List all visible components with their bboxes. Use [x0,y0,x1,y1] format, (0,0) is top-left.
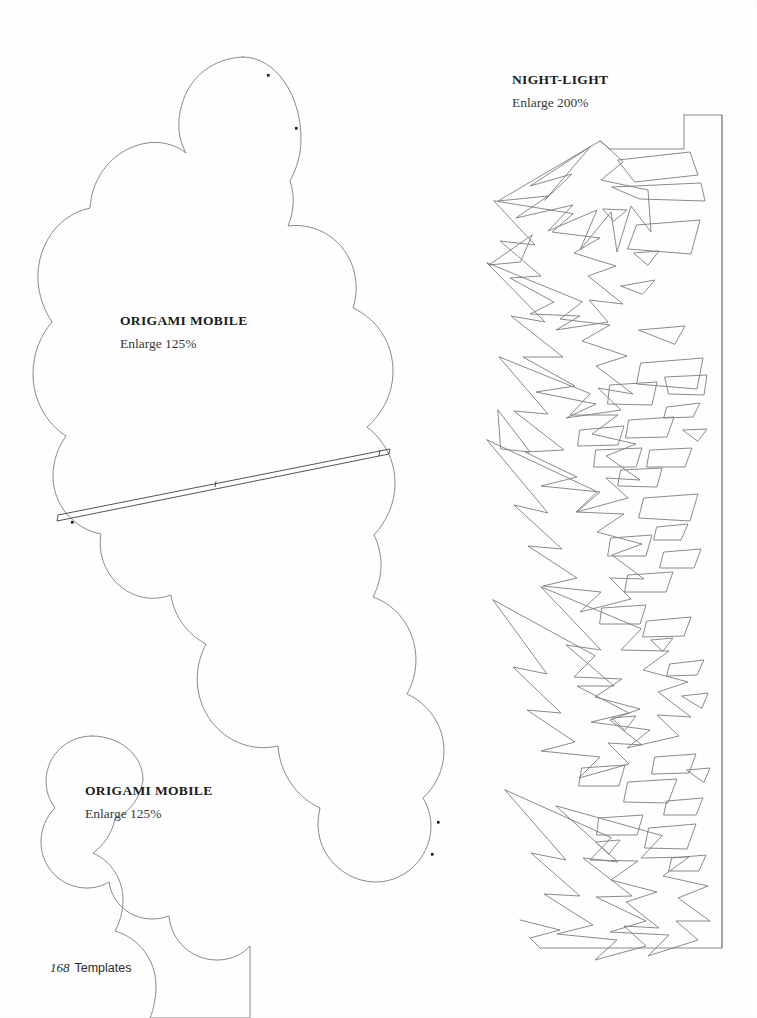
origami-mobile-large-title: ORIGAMI MOBILE [120,313,248,329]
origami-mobile-large-scale-note: Enlarge 125% [120,336,248,352]
night-light-cutouts [487,141,710,960]
night-light-scale-note: Enlarge 200% [512,95,608,111]
template-page: NIGHT-LIGHT Enlarge 200% ORIGAMI MOBILE … [0,0,757,1018]
night-light-label-block: NIGHT-LIGHT Enlarge 200% [512,72,608,111]
origami-mobile-small-label-block: ORIGAMI MOBILE Enlarge 125% [85,783,213,822]
footer-section-label: Templates [75,961,132,975]
punch-hole-dot [267,74,270,77]
origami-mobile-small-scale-note: Enlarge 125% [85,806,213,822]
night-light-shape [487,115,722,960]
night-light-title: NIGHT-LIGHT [512,72,608,88]
punch-hole-dot [437,821,440,824]
origami-mobile-large-shape [33,57,444,882]
folio-page-number: 168 [50,960,70,975]
origami-slot [57,449,390,521]
origami-mobile-small-title: ORIGAMI MOBILE [85,783,213,799]
origami-mobile-large-label-block: ORIGAMI MOBILE Enlarge 125% [120,313,248,352]
page-footer: 168Templates [50,960,131,976]
punch-hole-dot [71,521,74,524]
punch-hole-dot [431,853,434,856]
template-artwork-layer [0,0,757,1018]
punch-hole-dot [295,127,298,130]
